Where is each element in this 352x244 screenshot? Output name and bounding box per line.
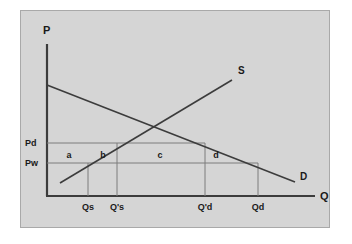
price-label-pd: Pd [25, 139, 37, 148]
area-label-a: a [62, 151, 76, 160]
area-label-b: b [96, 151, 110, 160]
quantity-label-qprimes: Q's [104, 203, 130, 212]
supply-curve-label: S [238, 66, 245, 76]
area-label-d: d [209, 151, 223, 160]
quantity-label-qs: Qs [76, 203, 100, 212]
quantity-label-qd: Qd [246, 203, 270, 212]
price-label-pw: Pw [25, 159, 38, 168]
screenshot-root: P Q S D Pd Pw Qs Q's Q'd Qd a b c d [0, 0, 352, 244]
x-axis-label: Q [320, 191, 329, 202]
y-axis-label: P [43, 25, 50, 36]
demand-curve-label: D [300, 172, 307, 182]
figure-frame [20, 10, 330, 228]
area-label-c: c [153, 151, 167, 160]
quantity-label-qprimed: Q'd [192, 203, 218, 212]
